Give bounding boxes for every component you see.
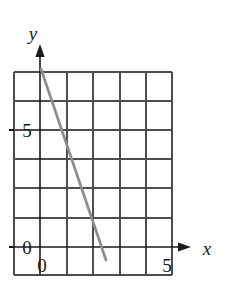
x-axis-label: x: [202, 238, 212, 259]
x-tick-label-5: 5: [162, 255, 172, 276]
y-axis-label: y: [27, 23, 38, 44]
coordinate-plane-chart: y x 5 0 0 5: [0, 0, 226, 296]
x-tick-label-0: 0: [37, 255, 47, 276]
y-tick-label-5: 5: [22, 120, 32, 141]
chart-background: [0, 0, 226, 296]
graph-figure: y x 5 0 0 5: [0, 0, 226, 296]
y-tick-label-0: 0: [22, 237, 32, 258]
